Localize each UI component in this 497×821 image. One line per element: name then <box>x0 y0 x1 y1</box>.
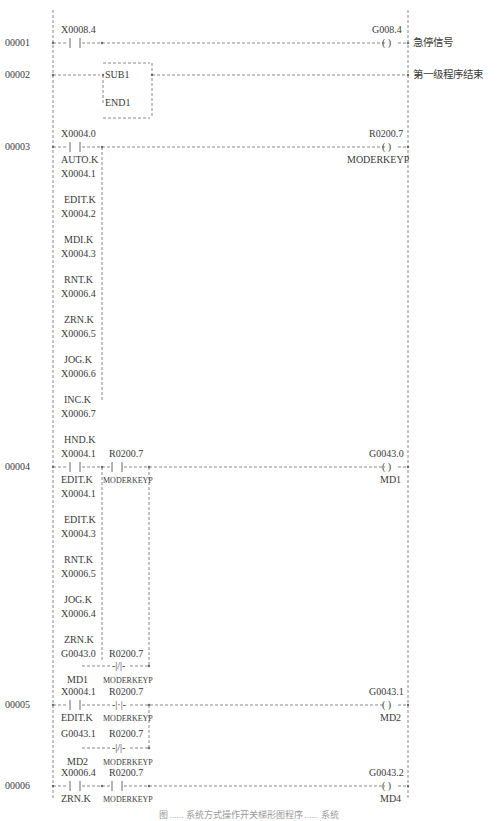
coil-address: G008.4 <box>372 24 402 36</box>
contact-label: JOG.K <box>64 354 92 366</box>
contact-address: G0043.1 <box>61 728 96 740</box>
contact-address: X0006.5 <box>61 568 96 580</box>
contact-address: R0200.7 <box>109 728 143 740</box>
contact-label: AUTO.K <box>61 154 98 166</box>
function-block-top: SUB1 <box>105 69 129 81</box>
coil-symbol: ( ) <box>382 780 391 792</box>
rung-number: 00004 <box>5 461 30 473</box>
contact-address: X0006.4 <box>61 608 96 620</box>
nc-contact-symbol: -|/|- <box>112 742 125 754</box>
contact-label: MODERKEYP <box>103 794 153 806</box>
contact-label: MODERKEYP <box>103 713 153 725</box>
contact-label: JOG.K <box>64 594 92 606</box>
contact-label: ZRN.K <box>64 634 94 646</box>
contact-address: X0006.4 <box>61 767 96 779</box>
contact-label: ZRN.K <box>64 314 94 326</box>
coil-label: MD1 <box>380 474 401 486</box>
contact-address: R0200.7 <box>109 767 143 779</box>
coil-symbol: ( ) <box>382 37 391 49</box>
rung-comment: 第一级程序结束 <box>413 69 483 81</box>
coil-address: R0200.7 <box>369 128 403 140</box>
rung-number: 00005 <box>5 699 30 711</box>
rung-number: 00003 <box>5 141 30 153</box>
contact-label: INC.K <box>64 394 91 406</box>
function-block-bottom: END1 <box>105 97 131 109</box>
rung-number: 00001 <box>5 37 30 49</box>
coil-symbol: ( ) <box>382 461 391 473</box>
rung-number: 00006 <box>5 780 30 792</box>
coil-address: G0043.1 <box>369 686 404 698</box>
contact-label: MD1 <box>67 674 88 686</box>
contact-address: X0008.4 <box>61 24 96 36</box>
contact-address: X0004.1 <box>61 686 96 698</box>
contact-address: X0004.3 <box>61 528 96 540</box>
contact-address: R0200.7 <box>109 648 143 660</box>
contact-label: EDIT.K <box>64 194 96 206</box>
contact-address: X0004.3 <box>61 248 96 260</box>
contact-address: X0004.1 <box>61 448 96 460</box>
contact-label: HND.K <box>64 434 95 446</box>
contact-symbol: -|·|- <box>112 699 126 711</box>
contact-address: X0006.5 <box>61 328 96 340</box>
contact-address: R0200.7 <box>109 448 143 460</box>
contact-label: RNT.K <box>64 554 93 566</box>
rung-number: 00002 <box>5 69 30 81</box>
contact-label: EDIT.K <box>64 514 96 526</box>
coil-label: MD2 <box>380 712 401 724</box>
nc-contact-symbol: -|/|- <box>112 660 125 672</box>
contact-address: G0043.0 <box>61 648 96 660</box>
contact-address: X0004.1 <box>61 488 96 500</box>
contact-address: R0200.7 <box>109 686 143 698</box>
contact-label: ZRN.K <box>61 793 91 805</box>
rung-comment: 急停信号 <box>413 37 453 49</box>
coil-address: G0043.2 <box>369 767 404 779</box>
contact-label: RNT.K <box>64 274 93 286</box>
contact-address: X0006.4 <box>61 288 96 300</box>
contact-label: MODERKEYP <box>103 475 153 487</box>
contact-address: X0004.0 <box>61 128 96 140</box>
contact-label: EDIT.K <box>61 712 93 724</box>
contact-label: MDI.K <box>64 234 93 246</box>
coil-symbol: ( ) <box>382 141 391 153</box>
contact-address: X0004.1 <box>61 168 96 180</box>
contact-address: X0006.7 <box>61 408 96 420</box>
coil-label: MODERKEYP <box>347 154 409 166</box>
contact-address: X0006.6 <box>61 368 96 380</box>
contact-label: EDIT.K <box>61 474 93 486</box>
coil-label: MD4 <box>380 793 401 805</box>
coil-address: G0043.0 <box>369 448 404 460</box>
figure-caption: 图 ...... 系统方式操作开关梯形图程序 ...... 系统 <box>0 808 497 821</box>
contact-address: X0004.2 <box>61 208 96 220</box>
coil-symbol: ( ) <box>382 699 391 711</box>
